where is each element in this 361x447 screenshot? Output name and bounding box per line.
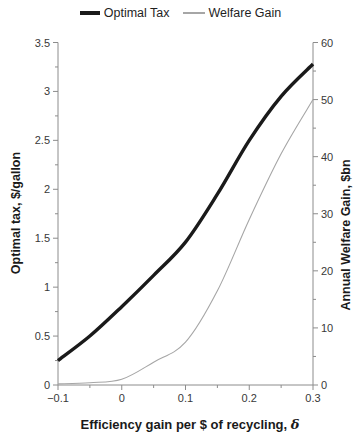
right-tick-label: 0 [321,379,327,391]
left-tick-label: 2 [44,183,50,195]
legend-item-welfare-gain: Welfare Gain [183,6,282,20]
x-tick-label: 0.3 [305,392,320,404]
legend: Optimal Tax Welfare Gain [0,6,361,20]
left-tick-label: 1.5 [35,232,50,244]
left-tick-label: 3 [44,85,50,97]
x-tick-label: 0.2 [242,392,257,404]
left-tick-label: 2.5 [35,134,50,146]
left-tick-label: 0 [44,379,50,391]
right-tick-label: 50 [321,94,333,106]
left-tick-label: 0.5 [35,330,50,342]
legend-label-optimal-tax: Optimal Tax [104,6,170,20]
right-tick-label: 60 [321,37,333,49]
plot-area: 00.511.522.533.50102030405060−0.100.10.2… [0,0,361,447]
legend-label-welfare-gain: Welfare Gain [209,6,282,20]
right-axis-title: Annual Welfare Gain, $bn [339,159,353,310]
optimal-tax-line-swatch [80,11,100,15]
delta-symbol: δ [291,417,300,432]
optimal-tax-line [58,64,313,361]
chart: 00.511.522.533.50102030405060−0.100.10.2… [0,0,361,447]
x-axis-title: Efficiency gain per $ of recycling, δ [81,417,300,432]
x-tick-label: 0 [119,392,125,404]
x-axis-title-text: Efficiency gain per $ of recycling, [81,417,291,432]
right-tick-label: 10 [321,322,333,334]
legend-item-optimal-tax: Optimal Tax [80,6,170,20]
left-axis-title: Optimal tax, $/gallon [9,152,23,274]
right-tick-label: 20 [321,265,333,277]
left-tick-label: 1 [44,281,50,293]
right-tick-label: 30 [321,208,333,220]
welfare-gain-line-swatch [183,12,205,13]
right-tick-label: 40 [321,151,333,163]
x-tick-label: 0.1 [178,392,193,404]
x-tick-label: −0.1 [47,392,69,404]
left-tick-label: 3.5 [35,37,50,49]
